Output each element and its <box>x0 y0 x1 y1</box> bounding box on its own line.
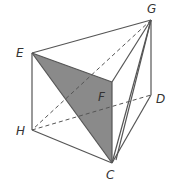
label-c: C <box>106 168 115 179</box>
label-f: F <box>98 90 106 104</box>
label-h: H <box>16 124 25 138</box>
label-e: E <box>16 46 24 60</box>
label-g: G <box>147 2 156 16</box>
prism-diagram: G E F D H C <box>0 0 178 179</box>
label-d: D <box>156 92 165 106</box>
edge-g-c-2 <box>116 20 151 160</box>
